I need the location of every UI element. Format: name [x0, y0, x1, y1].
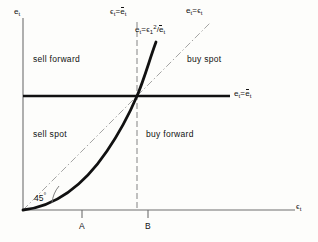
quadratic-curve: [23, 42, 156, 210]
diagonal-45-line: [23, 23, 210, 210]
vertical-line-label: ϵt=et: [110, 8, 127, 17]
angle-label: 45°: [34, 192, 46, 203]
curve-label: et=ϵ12/et: [135, 24, 165, 35]
x-tick-label-b: B: [145, 222, 151, 231]
diagonal-line-label: et=ϵt: [186, 7, 203, 16]
horizontal-line-label: et=et: [234, 90, 251, 99]
y-axis-label: et: [14, 8, 20, 17]
quadrant-label-sell-forward: sell forward: [33, 55, 80, 64]
quadrant-label-sell-spot: sell spot: [33, 130, 67, 139]
exchange-rate-diagram: et ϵt ϵt=et et=ϵt et=ϵ12/et et=et sell f…: [0, 0, 318, 242]
x-axis-label: ϵt: [296, 203, 301, 212]
quadrant-label-buy-forward: buy forward: [146, 130, 194, 139]
quadrant-label-buy-spot: buy spot: [187, 55, 222, 64]
x-tick-label-a: A: [79, 222, 85, 231]
diagram-canvas: [0, 0, 318, 242]
